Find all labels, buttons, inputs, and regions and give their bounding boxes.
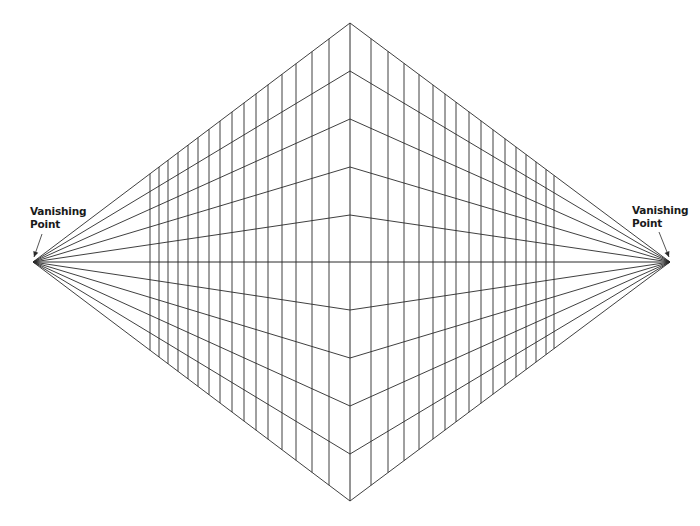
vanishing-line bbox=[33, 262, 350, 310]
label-line-2: Point bbox=[30, 218, 86, 231]
right-vanishing-point-label: Vanishing Point bbox=[632, 204, 688, 230]
label-line-1: Vanishing bbox=[30, 205, 86, 218]
vanishing-line bbox=[33, 262, 350, 406]
left-vanishing-lines bbox=[33, 23, 670, 501]
vanishing-line bbox=[33, 71, 350, 262]
vanishing-line bbox=[350, 215, 670, 262]
vanishing-line bbox=[350, 119, 670, 262]
vanishing-line bbox=[350, 262, 670, 406]
vanishing-line bbox=[350, 262, 670, 454]
vanishing-line bbox=[350, 262, 670, 358]
arrowhead-icon bbox=[33, 251, 38, 257]
vanishing-line bbox=[350, 71, 670, 262]
vanishing-line bbox=[33, 262, 350, 501]
label-line-2: Point bbox=[632, 217, 688, 230]
vanishing-line bbox=[350, 262, 670, 310]
vanishing-line bbox=[350, 167, 670, 262]
perspective-grid bbox=[0, 0, 700, 526]
vanishing-line bbox=[350, 23, 670, 262]
vanishing-line bbox=[33, 262, 350, 358]
vanishing-line bbox=[33, 262, 350, 454]
perspective-diagram: Vanishing Point Vanishing Point bbox=[0, 0, 700, 526]
label-line-1: Vanishing bbox=[632, 204, 688, 217]
vanishing-line bbox=[350, 262, 670, 501]
left-vanishing-point-label: Vanishing Point bbox=[30, 205, 86, 231]
vanishing-line bbox=[33, 119, 350, 262]
label-arrows bbox=[33, 232, 669, 257]
